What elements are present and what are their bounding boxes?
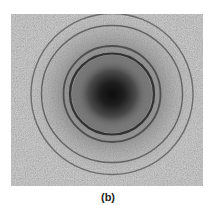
diffraction-pattern-image xyxy=(11,14,203,186)
central-spot xyxy=(78,61,146,127)
figure-caption: (b) xyxy=(0,191,216,204)
diffraction-rings xyxy=(11,14,203,186)
